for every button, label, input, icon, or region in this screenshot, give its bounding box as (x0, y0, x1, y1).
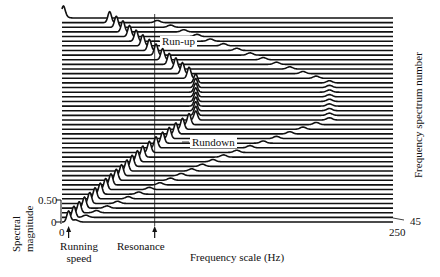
y-axis-label-line1: Spectral (11, 206, 22, 252)
running-speed-label: Running speed (56, 241, 102, 264)
x-tick-0: 0 (59, 227, 65, 238)
runup-annotation: Run-up (160, 36, 197, 47)
rundown-annotation: Rundown (190, 137, 237, 148)
x-tick-250: 250 (389, 227, 406, 238)
z-axis-label: Frequency spectrum number (413, 52, 424, 178)
y-axis-label-line2: magnitude (24, 206, 35, 252)
resonance-label: Resonance (117, 241, 165, 252)
z-tick-mark (393, 218, 404, 220)
running-speed-arrow-icon-head (66, 226, 71, 232)
z-tick-45: 45 (410, 216, 421, 227)
x-axis-label: Frequency scale (Hz) (190, 252, 284, 263)
y-axis-label: Spectral magnitude (11, 206, 35, 252)
running-speed-label-line1: Running (56, 241, 102, 252)
y-tick-050: 0.50 (38, 195, 57, 206)
resonance-arrow-icon-head (152, 226, 157, 232)
y-tick-0: 0 (51, 217, 57, 228)
running-speed-label-line2: speed (56, 253, 102, 264)
